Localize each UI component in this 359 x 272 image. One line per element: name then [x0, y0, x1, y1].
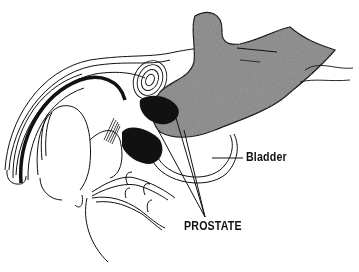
prostate-leader-line-3: [184, 130, 205, 217]
bladder-wall: [150, 134, 237, 183]
rectum: [86, 172, 175, 262]
testis-outline: [37, 106, 122, 207]
bladder-stippled-region: [153, 12, 336, 137]
bladder-label: Bladder: [246, 149, 287, 164]
urethra: [7, 74, 125, 184]
prostate-label: PROSTATE: [184, 218, 242, 233]
anatomy-diagram: [0, 0, 359, 272]
